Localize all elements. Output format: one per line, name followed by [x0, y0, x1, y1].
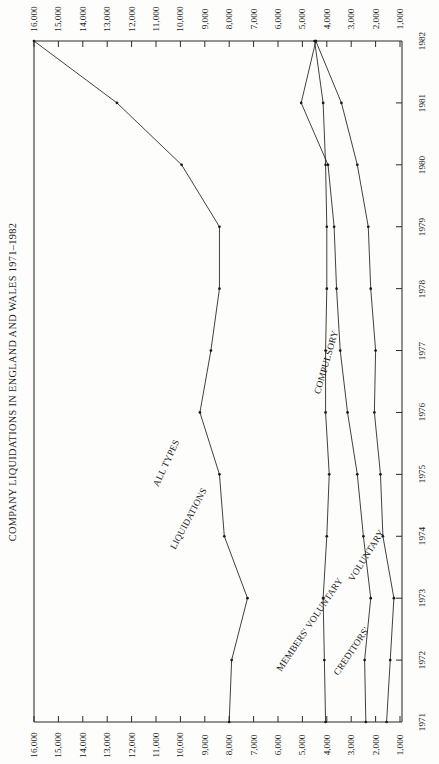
- data-point: [364, 721, 367, 724]
- value-tick-label-bottom: 1,000: [395, 735, 405, 756]
- data-point: [369, 287, 372, 290]
- data-point: [389, 659, 392, 662]
- year-tick-label: 1974: [417, 527, 427, 545]
- chart-plot-area: 16,00015,00014,00013,00012,00011,00010,0…: [0, 0, 439, 764]
- data-point: [346, 411, 349, 414]
- data-point: [218, 287, 221, 290]
- value-tick-label-bottom: 13,000: [102, 732, 112, 757]
- data-point: [228, 721, 231, 724]
- axis-frame: [34, 41, 402, 722]
- value-tick-label-bottom: 10,000: [175, 732, 185, 757]
- value-tick-label-bottom: 2,000: [371, 735, 381, 756]
- data-point: [116, 102, 119, 105]
- value-tick-label-bottom: 16,000: [29, 732, 39, 757]
- value-tick-label-top: 6,000: [273, 9, 283, 30]
- value-tick-label-bottom: 5,000: [297, 735, 307, 756]
- value-tick-label-top: 3,000: [346, 9, 356, 30]
- data-point: [363, 659, 366, 662]
- data-point: [379, 473, 382, 476]
- value-tick-label-bottom: 7,000: [249, 735, 259, 756]
- data-point: [324, 411, 327, 414]
- data-point: [339, 349, 342, 352]
- year-tick-label: 1972: [417, 651, 427, 669]
- year-tick-label: 1979: [417, 218, 427, 236]
- series-line: [34, 41, 248, 722]
- data-series-layer: [34, 41, 394, 722]
- data-point: [340, 102, 343, 105]
- data-point: [218, 225, 221, 228]
- data-point: [327, 163, 330, 166]
- data-point: [324, 721, 327, 724]
- value-tick-label-top: 15,000: [53, 6, 63, 31]
- data-point: [314, 40, 317, 43]
- data-point: [218, 473, 221, 476]
- value-tick-label-bottom: 12,000: [127, 732, 137, 757]
- data-point: [246, 597, 249, 600]
- data-point: [328, 473, 331, 476]
- data-point: [230, 659, 233, 662]
- series-line: [316, 41, 394, 722]
- data-point: [180, 163, 183, 166]
- year-tick-marks: [396, 103, 402, 660]
- value-tick-label-bottom: 14,000: [78, 732, 88, 757]
- value-tick-label-top: 13,000: [102, 6, 112, 31]
- chart-svg: [0, 0, 439, 764]
- data-point: [367, 225, 370, 228]
- data-point: [325, 287, 328, 290]
- year-tick-label: 1976: [417, 403, 427, 421]
- data-point: [199, 411, 202, 414]
- data-point: [322, 102, 325, 105]
- value-tick-marks: [34, 41, 400, 722]
- value-tick-label-top: 4,000: [322, 9, 332, 30]
- data-point: [374, 349, 377, 352]
- value-tick-label-bottom: 4,000: [322, 735, 332, 756]
- year-tick-label: 1980: [417, 156, 427, 174]
- year-tick-label: 1982: [417, 32, 427, 50]
- data-point: [323, 659, 326, 662]
- data-point: [300, 102, 303, 105]
- value-tick-label-top: 1,000: [395, 9, 405, 30]
- value-tick-label-top: 5,000: [297, 9, 307, 30]
- year-tick-label: 1971: [417, 713, 427, 731]
- value-tick-label-bottom: 3,000: [346, 735, 356, 756]
- data-point: [356, 473, 359, 476]
- value-tick-label-top: 9,000: [200, 9, 210, 30]
- data-point: [325, 225, 328, 228]
- data-point: [393, 597, 396, 600]
- value-tick-label-top: 14,000: [78, 6, 88, 31]
- data-point: [333, 225, 336, 228]
- value-tick-label-top: 10,000: [175, 6, 185, 31]
- value-tick-label-bottom: 9,000: [200, 735, 210, 756]
- value-tick-label-bottom: 15,000: [53, 732, 63, 757]
- value-tick-label-bottom: 8,000: [224, 735, 234, 756]
- data-point-markers: [33, 40, 396, 724]
- year-tick-label: 1978: [417, 279, 427, 297]
- data-point: [373, 411, 376, 414]
- data-point: [335, 287, 338, 290]
- data-point: [362, 535, 365, 538]
- value-tick-label-top: 12,000: [127, 6, 137, 31]
- data-point: [325, 535, 328, 538]
- data-point: [356, 163, 359, 166]
- data-point: [324, 163, 327, 166]
- data-point: [385, 721, 388, 724]
- value-tick-label-top: 8,000: [224, 9, 234, 30]
- data-point: [369, 597, 372, 600]
- value-tick-label-top: 7,000: [249, 9, 259, 30]
- year-tick-label: 1973: [417, 589, 427, 607]
- value-tick-label-bottom: 11,000: [151, 733, 161, 758]
- value-tick-label-top: 16,000: [29, 6, 39, 31]
- data-point: [223, 535, 226, 538]
- data-point: [33, 40, 36, 43]
- value-tick-label-bottom: 6,000: [273, 735, 283, 756]
- year-tick-label: 1975: [417, 465, 427, 483]
- year-tick-label: 1977: [417, 341, 427, 359]
- year-tick-label: 1981: [417, 94, 427, 112]
- value-tick-label-top: 2,000: [371, 9, 381, 30]
- data-point: [210, 349, 213, 352]
- value-tick-label-top: 11,000: [151, 7, 161, 32]
